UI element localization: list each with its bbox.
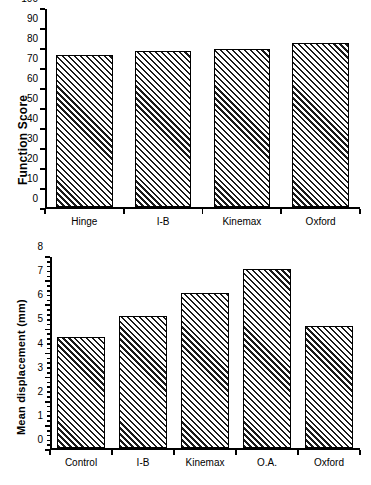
- x-axis-label: I-B: [124, 216, 203, 227]
- x-tick: [123, 209, 125, 214]
- x-axis-label: O.A.: [236, 457, 298, 468]
- figure-two-bar-charts: Function Score 0102030405060708090100 Hi…: [0, 0, 371, 485]
- plot-area-function-score: 0102030405060708090100 HingeI-BKinemaxOx…: [45, 9, 360, 209]
- y-tick-label: 6: [37, 290, 43, 300]
- x-tick: [202, 209, 204, 214]
- bar-group-mean-displacement: [50, 257, 360, 448]
- y-tick-label: 3: [37, 363, 43, 373]
- y-tick-label: 90: [27, 14, 38, 24]
- x-axis-label: Kinemax: [203, 216, 282, 227]
- x-axis-labels-bottom: ControlI-BKinemaxO.A.Oxford: [50, 457, 360, 468]
- y-tick-label: 20: [27, 154, 38, 164]
- y-tick-label: 100: [21, 0, 38, 4]
- x-tick: [235, 450, 237, 455]
- y-tick-label: 1: [37, 411, 43, 421]
- x-axis-label: Hinge: [45, 216, 124, 227]
- y-tick-label: 30: [27, 134, 38, 144]
- x-tick: [359, 450, 361, 455]
- y-tick-label: 5: [37, 314, 43, 324]
- x-axis-label: I-B: [112, 457, 174, 468]
- y-tick-label: 60: [27, 74, 38, 84]
- x-axis-label: Oxford: [298, 457, 360, 468]
- bar-slot: [50, 257, 112, 448]
- plot-area-mean-displacement: 012345678 ControlI-BKinemaxO.A.Oxford: [50, 257, 360, 450]
- chart-panel-function-score: Function Score 0102030405060708090100 Hi…: [0, 0, 371, 240]
- bar-slot: [112, 257, 174, 448]
- bar-i-b: [135, 51, 192, 207]
- x-axis-label: Oxford: [281, 216, 360, 227]
- y-tick-label: 7: [37, 266, 43, 276]
- y-tick-label: 80: [27, 34, 38, 44]
- x-tick: [49, 450, 51, 455]
- bar-slot: [203, 9, 282, 207]
- bar-kinemax: [181, 293, 228, 448]
- bar-slot: [281, 9, 360, 207]
- x-tick: [280, 209, 282, 214]
- y-tick-label: 10: [27, 174, 38, 184]
- x-axis-label: Kinemax: [174, 457, 236, 468]
- bar-control: [57, 337, 104, 448]
- x-axis-labels-top: HingeI-BKinemaxOxford: [45, 216, 360, 227]
- bar-kinemax: [214, 49, 271, 207]
- y-tick-label: 4: [37, 339, 43, 349]
- chart-panel-mean-displacement: Mean displacement (mm) 012345678 Control…: [0, 240, 371, 485]
- bar-slot: [174, 257, 236, 448]
- bar-slot: [298, 257, 360, 448]
- x-tick: [297, 450, 299, 455]
- bar-i-b: [119, 316, 166, 449]
- y-tick-label: 50: [27, 94, 38, 104]
- y-tick-label: 8: [37, 242, 43, 252]
- bar-slot: [45, 9, 124, 207]
- y-tick-label: 0: [37, 435, 43, 445]
- y-tick-label: 70: [27, 54, 38, 64]
- bar-hinge: [56, 55, 113, 207]
- x-tick: [111, 450, 113, 455]
- bar-oxford: [292, 43, 349, 207]
- y-tick-label: 2: [37, 387, 43, 397]
- bar-group-function-score: [45, 9, 360, 207]
- x-axis-label: Control: [50, 457, 112, 468]
- x-tick: [359, 209, 361, 214]
- bar-o-a: [243, 269, 290, 448]
- bar-slot: [236, 257, 298, 448]
- x-axis-line-bottom: [50, 448, 360, 450]
- bar-slot: [124, 9, 203, 207]
- y-axis-title-bottom: Mean displacement (mm): [15, 299, 27, 435]
- y-tick-label: 0: [32, 194, 38, 204]
- bar-oxford: [305, 326, 352, 448]
- y-tick-label: 40: [27, 114, 38, 124]
- x-tick: [173, 450, 175, 455]
- x-tick: [44, 209, 46, 214]
